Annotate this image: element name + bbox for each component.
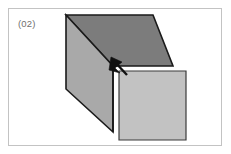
figure-panel: (02) (8, 8, 222, 146)
shape-face-right-square (119, 71, 186, 140)
three-dimensional-shape-diagram (9, 9, 223, 147)
